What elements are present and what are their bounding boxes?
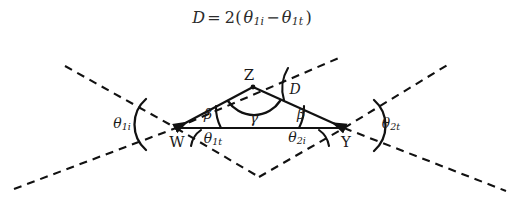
vertex-label-W: W bbox=[169, 135, 184, 150]
vertex-label-Z: Z bbox=[244, 68, 254, 83]
triangle-edge-WZ bbox=[176, 87, 253, 128]
formula-term2-base: θ bbox=[282, 8, 292, 27]
formula-equals: = bbox=[205, 8, 223, 27]
geometry-figure: D=2(θ1i−θ1t) W Z Y θ1i θ1t β γ β θ2i D θ… bbox=[0, 0, 507, 202]
dashed-ray-Y-to-lower-right bbox=[344, 128, 506, 191]
formula-term1-base: θ bbox=[244, 8, 254, 27]
angle-label-D: D bbox=[289, 82, 300, 96]
angle-label-theta-2i: θ2i bbox=[288, 130, 306, 146]
angle-label-gamma: γ bbox=[250, 111, 258, 125]
formula-term2-sub: 1t bbox=[292, 15, 304, 28]
formula-rhs-prefix: 2( bbox=[223, 8, 244, 27]
triangle-WZY bbox=[176, 87, 344, 128]
angle-label-beta-right: β bbox=[297, 107, 305, 121]
angle-label-gamma-base: γ bbox=[250, 110, 258, 126]
angle-label-D-base: D bbox=[289, 81, 300, 97]
angle-label-beta-right-base: β bbox=[297, 106, 305, 122]
arc-theta-2i bbox=[319, 130, 329, 146]
angle-label-beta-left-base: β bbox=[204, 106, 212, 122]
angle-label-beta-left: β bbox=[204, 107, 212, 121]
dashed-ray-W-through-Z-extended bbox=[176, 57, 341, 128]
dashed-construction-lines bbox=[14, 57, 506, 191]
angle-label-theta-1i: θ1i bbox=[113, 116, 131, 132]
angle-label-theta-2t: θ2t bbox=[382, 116, 400, 132]
vertex-label-Y: Y bbox=[341, 135, 351, 150]
angle-label-theta-1i-sub: 1i bbox=[122, 121, 131, 132]
dashed-ray-lower-left-to-W bbox=[14, 128, 176, 189]
formula-D-equation: D=2(θ1i−θ1t) bbox=[192, 8, 314, 28]
arc-D bbox=[282, 68, 288, 100]
arc-theta-1t bbox=[191, 130, 201, 146]
formula-rhs-suffix: ) bbox=[303, 8, 313, 27]
formula-term1-sub: 1i bbox=[253, 15, 264, 28]
angle-label-theta-1t: θ1t bbox=[204, 131, 222, 147]
formula-lhs: D bbox=[192, 8, 205, 27]
formula-minus: − bbox=[264, 8, 282, 27]
angle-label-theta-2t-sub: 2t bbox=[390, 121, 400, 132]
angle-label-theta-2i-sub: 2i bbox=[297, 135, 306, 146]
vertex-dot-Z bbox=[251, 85, 256, 90]
angle-label-theta-1t-sub: 1t bbox=[212, 136, 222, 147]
diagram-canvas bbox=[0, 0, 507, 202]
